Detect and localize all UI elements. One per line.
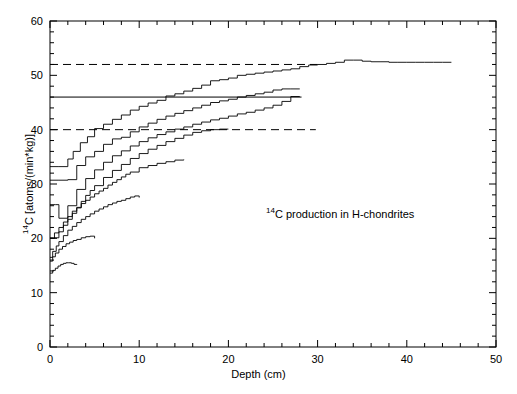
y-axis-label-text: C [atoms/(min*kg)] xyxy=(23,134,35,225)
x-axis-tick-label: 40 xyxy=(401,353,413,365)
x-axis-tick-label: 0 xyxy=(47,353,53,365)
y-axis-label: 14C [atoms/(min*kg)] xyxy=(19,64,37,304)
series-R-second xyxy=(50,89,300,180)
chart-annotation: 14C production in H-chondrites xyxy=(266,208,414,220)
y-axis-tick-label: 0 xyxy=(37,341,43,353)
annotation-text: C production in H-chondrites xyxy=(275,208,414,220)
series-R-fifth xyxy=(50,160,184,239)
x-axis-tick-label: 30 xyxy=(311,353,323,365)
x-axis-tick-label: 20 xyxy=(222,353,234,365)
x-axis-label: Depth (cm) xyxy=(0,368,517,380)
chart-figure: 010203040500102030405060 xyxy=(0,0,517,394)
annotation-superscript: 14 xyxy=(266,206,275,215)
chart-plot-area: 010203040500102030405060 xyxy=(0,0,517,394)
x-axis-tick-label: 10 xyxy=(133,353,145,365)
plot-frame xyxy=(50,21,496,347)
y-axis-label-superscript: 14 xyxy=(21,225,30,234)
series-R-smallest xyxy=(50,263,77,273)
x-axis-tick-label: 50 xyxy=(490,353,502,365)
series-R-largest xyxy=(50,60,451,166)
y-axis-tick-label: 60 xyxy=(31,15,43,27)
